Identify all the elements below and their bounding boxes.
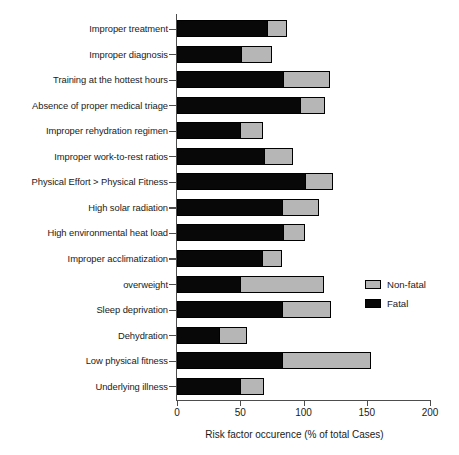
bar-segment-non-fatal[interactable] <box>305 173 333 190</box>
x-tick-label: 100 <box>284 407 324 419</box>
category-axis-labels: Improper treatmentImproper diagnosisTrai… <box>0 0 168 400</box>
bar-segment-fatal[interactable] <box>177 122 242 139</box>
legend-swatch-nonfatal <box>365 280 381 289</box>
category-label: Improper treatment <box>89 24 168 34</box>
bar-row[interactable] <box>177 352 430 369</box>
bar-segment-fatal[interactable] <box>177 327 220 344</box>
category-tick <box>169 105 177 106</box>
category-tick <box>169 284 177 285</box>
x-tick-label: 150 <box>347 407 387 419</box>
category-label: Improper rehydration regimen <box>46 126 168 136</box>
bar-segment-non-fatal[interactable] <box>282 301 331 318</box>
bar-row[interactable] <box>177 199 430 216</box>
bar-segment-fatal[interactable] <box>177 173 306 190</box>
x-tick-label: 50 <box>220 407 260 419</box>
legend-entry[interactable]: Fatal <box>365 297 459 309</box>
bar-segment-non-fatal[interactable] <box>240 276 324 293</box>
bar-segment-non-fatal[interactable] <box>300 97 325 114</box>
x-tick <box>177 400 178 406</box>
category-label: Improper work-to-rest ratios <box>54 152 168 162</box>
x-tick-label: 0 <box>157 407 197 419</box>
bar-row[interactable] <box>177 20 430 37</box>
legend-label: Non-fatal <box>387 279 426 290</box>
bar-segment-fatal[interactable] <box>177 378 242 395</box>
bar-row[interactable] <box>177 250 430 267</box>
x-tick <box>430 400 431 406</box>
bar-segment-fatal[interactable] <box>177 46 243 63</box>
category-label: Low physical fitness <box>86 356 168 366</box>
bar-row[interactable] <box>177 327 430 344</box>
category-tick <box>169 361 177 362</box>
bar-row[interactable] <box>177 378 430 395</box>
bar-segment-fatal[interactable] <box>177 301 283 318</box>
bar-segment-fatal[interactable] <box>177 250 263 267</box>
bar-segment-non-fatal[interactable] <box>267 20 287 37</box>
bar-segment-fatal[interactable] <box>177 224 285 241</box>
category-label: Underlying illness <box>95 382 168 392</box>
x-tick <box>367 400 368 406</box>
bar-segment-non-fatal[interactable] <box>283 224 305 241</box>
bar-segment-non-fatal[interactable] <box>262 250 282 267</box>
category-tick <box>169 29 177 30</box>
category-label: Improper acclimatization <box>68 254 168 264</box>
bar-row[interactable] <box>177 122 430 139</box>
bar-segment-fatal[interactable] <box>177 71 285 88</box>
category-label: High environmental heat load <box>47 228 168 238</box>
bar-row[interactable] <box>177 148 430 165</box>
bar-segment-fatal[interactable] <box>177 20 268 37</box>
bar-segment-fatal[interactable] <box>177 148 266 165</box>
category-label: Training at the hottest hours <box>53 75 168 85</box>
category-label: Absence of proper medical triage <box>32 101 168 111</box>
risk-factor-stacked-bar-chart: Improper treatmentImproper diagnosisTrai… <box>0 0 459 455</box>
bar-segment-non-fatal[interactable] <box>283 71 330 88</box>
legend-swatch-fatal <box>365 299 381 308</box>
category-tick <box>169 310 177 311</box>
category-tick <box>169 54 177 55</box>
bar-segment-non-fatal[interactable] <box>240 122 263 139</box>
legend-label: Fatal <box>387 298 408 309</box>
category-tick <box>169 131 177 132</box>
bar-row[interactable] <box>177 224 430 241</box>
plot-area <box>177 14 430 397</box>
bar-segment-non-fatal[interactable] <box>264 148 293 165</box>
category-label: Improper diagnosis <box>89 50 168 60</box>
category-tick <box>169 80 177 81</box>
category-label: overweight <box>123 280 168 290</box>
bar-segment-fatal[interactable] <box>177 352 283 369</box>
category-tick <box>169 386 177 387</box>
bar-segment-non-fatal[interactable] <box>241 46 271 63</box>
bar-segment-fatal[interactable] <box>177 97 301 114</box>
x-axis-title: Risk factor occurence (% of total Cases) <box>0 429 459 440</box>
x-tick <box>240 400 241 406</box>
category-tick <box>169 156 177 157</box>
bar-row[interactable] <box>177 46 430 63</box>
category-label: Physical Effort > Physical Fitness <box>32 177 168 187</box>
legend-entry[interactable]: Non-fatal <box>365 278 459 290</box>
category-tick <box>169 258 177 259</box>
category-tick <box>169 335 177 336</box>
bar-row[interactable] <box>177 173 430 190</box>
bar-segment-fatal[interactable] <box>177 276 242 293</box>
category-tick <box>169 182 177 183</box>
bar-segment-non-fatal[interactable] <box>282 352 371 369</box>
bar-segment-fatal[interactable] <box>177 199 283 216</box>
category-label: High solar radiation <box>88 203 168 213</box>
category-tick <box>169 233 177 234</box>
category-tick <box>169 207 177 208</box>
chart-legend: Non-fatalFatal <box>365 278 459 316</box>
bar-segment-non-fatal[interactable] <box>282 199 319 216</box>
bar-row[interactable] <box>177 97 430 114</box>
bar-segment-non-fatal[interactable] <box>219 327 247 344</box>
category-label: Dehydration <box>118 331 168 341</box>
bar-segment-non-fatal[interactable] <box>240 378 264 395</box>
bar-row[interactable] <box>177 71 430 88</box>
x-tick-label: 200 <box>410 407 450 419</box>
x-tick <box>304 400 305 406</box>
category-label: Sleep deprivation <box>96 305 168 315</box>
